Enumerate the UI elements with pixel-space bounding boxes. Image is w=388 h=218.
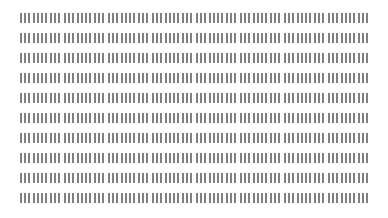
bar-glyph [328, 33, 330, 43]
bar-glyph [366, 73, 368, 83]
grid-cell [240, 13, 280, 23]
grid-cell [240, 53, 280, 63]
bar-glyph [186, 113, 188, 123]
bar-glyph [138, 173, 140, 183]
bar-glyph [301, 173, 303, 183]
bar-glyph [186, 73, 188, 83]
bar-glyph [138, 53, 140, 63]
bar-glyph [186, 193, 188, 203]
bar-glyph [278, 13, 280, 23]
bar-glyph [230, 33, 232, 43]
bar-glyph [358, 53, 360, 63]
bar-glyph [270, 93, 272, 103]
bar-glyph [292, 133, 294, 143]
bar-glyph [177, 173, 179, 183]
bar-glyph [200, 33, 202, 43]
bar-glyph [318, 193, 320, 203]
bar-glyph [72, 153, 74, 163]
bar-glyph [125, 153, 127, 163]
bar-glyph [125, 133, 127, 143]
bar-glyph [81, 13, 83, 23]
bar-glyph [169, 13, 171, 23]
bar-glyph [314, 173, 316, 183]
grid-cell [152, 193, 192, 203]
bar-glyph [240, 73, 242, 83]
bar-glyph [146, 153, 148, 163]
bar-glyph [72, 93, 74, 103]
grid-cell [240, 193, 280, 203]
bar-glyph [318, 33, 320, 43]
bar-glyph [138, 33, 140, 43]
grid-cell [108, 193, 148, 203]
bar-glyph [288, 133, 290, 143]
bar-glyph [336, 153, 338, 163]
bar-glyph [129, 13, 131, 23]
bar-glyph [54, 73, 56, 83]
bar-glyph [85, 173, 87, 183]
bar-glyph [72, 113, 74, 123]
bar-glyph [341, 113, 343, 123]
bar-glyph [292, 113, 294, 123]
bar-glyph [45, 113, 47, 123]
bar-glyph [160, 33, 162, 43]
bar-glyph [81, 33, 83, 43]
bar-glyph [336, 133, 338, 143]
grid-cell [108, 113, 148, 123]
bar-glyph [85, 73, 87, 83]
bar-glyph [58, 113, 60, 123]
bar-glyph [261, 153, 263, 163]
bar-glyph [108, 93, 110, 103]
bar-glyph [345, 113, 347, 123]
bar-glyph [341, 193, 343, 203]
bar-glyph [305, 33, 307, 43]
bar-glyph [152, 53, 154, 63]
bar-glyph [64, 33, 66, 43]
grid-cell [20, 153, 60, 163]
bar-glyph [305, 133, 307, 143]
bar-glyph [213, 153, 215, 163]
bar-glyph [318, 173, 320, 183]
bar-glyph [156, 93, 158, 103]
bar-glyph [353, 93, 355, 103]
bar-glyph [341, 13, 343, 23]
bar-glyph [186, 93, 188, 103]
bar-glyph [244, 73, 246, 83]
grid-cell [152, 133, 192, 143]
bar-glyph [318, 113, 320, 123]
bar-glyph [322, 53, 324, 63]
bar-glyph [112, 193, 114, 203]
bar-glyph [102, 33, 104, 43]
bar-glyph [204, 113, 206, 123]
bar-glyph [190, 173, 192, 183]
grid-cell [152, 53, 192, 63]
bar-glyph [142, 53, 144, 63]
bar-glyph [353, 73, 355, 83]
bar-glyph [204, 133, 206, 143]
grid-cell [108, 33, 148, 43]
bar-glyph [98, 193, 100, 203]
bar-glyph [24, 33, 26, 43]
bar-glyph [288, 33, 290, 43]
bar-glyph [284, 53, 286, 63]
bar-glyph [332, 153, 334, 163]
bar-glyph [328, 153, 330, 163]
bar-glyph [89, 33, 91, 43]
bar-glyph [274, 93, 276, 103]
bar-glyph [318, 153, 320, 163]
bar-glyph [64, 93, 66, 103]
bar-glyph [253, 193, 255, 203]
bar-glyph [213, 113, 215, 123]
bar-glyph [108, 33, 110, 43]
bar-glyph [353, 153, 355, 163]
bar-glyph [349, 53, 351, 63]
bar-glyph [58, 153, 60, 163]
bar-glyph [253, 153, 255, 163]
bar-glyph [112, 33, 114, 43]
grid-cell [64, 73, 104, 83]
bar-glyph [309, 193, 311, 203]
bar-glyph [177, 53, 179, 63]
bar-glyph [328, 73, 330, 83]
bar-glyph [169, 113, 171, 123]
bar-glyph [98, 93, 100, 103]
grid-cell [108, 93, 148, 103]
